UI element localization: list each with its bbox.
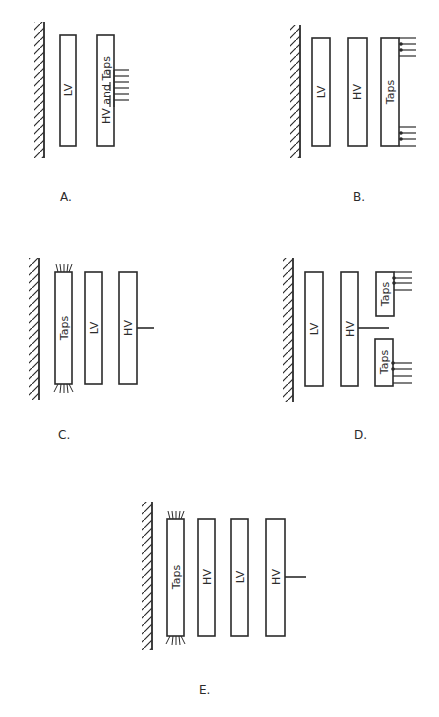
diagram-d: LV HV Taps Taps xyxy=(283,258,412,442)
caption-a: A. xyxy=(60,190,72,204)
winding-b-lv: LV xyxy=(312,38,330,146)
caption-b: B. xyxy=(353,190,365,204)
winding-label: HV xyxy=(201,569,214,585)
winding-c-hv: HV xyxy=(119,272,154,384)
winding-label: Taps xyxy=(378,350,391,376)
winding-label: Taps xyxy=(379,282,392,308)
winding-label: LV xyxy=(88,321,101,334)
winding-label: HV xyxy=(351,84,364,100)
winding-label: Taps xyxy=(58,316,71,342)
winding-b-taps: Taps xyxy=(381,38,399,146)
core-wall-d xyxy=(283,258,293,402)
winding-label: LV xyxy=(315,85,328,98)
winding-e-hv-outer: HV xyxy=(266,519,306,636)
tap-fan-bottom xyxy=(166,636,185,645)
winding-e-hv-inner: HV xyxy=(198,519,215,636)
winding-label: HV xyxy=(344,321,357,337)
winding-label: Taps xyxy=(170,565,183,591)
winding-label: HV xyxy=(270,569,283,585)
winding-c-lv: LV xyxy=(85,272,102,384)
winding-d-taps-upper: Taps xyxy=(376,272,412,316)
caption-c: C. xyxy=(58,428,70,442)
winding-a-hv-taps: HV and Taps xyxy=(97,35,114,146)
winding-label: Taps xyxy=(384,80,397,106)
core-wall-a xyxy=(34,22,44,158)
tap-fan-top xyxy=(168,511,184,519)
winding-c-taps: Taps xyxy=(54,264,73,393)
core-wall-c xyxy=(29,258,39,400)
winding-label: HV and Taps xyxy=(100,56,113,124)
winding-arrangements-figure: LV HV and Taps A. LV xyxy=(0,0,439,717)
winding-e-lv: LV xyxy=(231,519,248,636)
diagram-c: Taps LV HV C. xyxy=(29,258,154,442)
diagram-b: LV HV Taps B. xyxy=(290,25,416,204)
caption-e: E. xyxy=(199,683,210,697)
tap-fan-bottom xyxy=(54,384,73,393)
winding-label: LV xyxy=(308,322,321,335)
winding-label: HV xyxy=(122,320,135,336)
tap-fan-top xyxy=(56,264,72,272)
core-wall-e xyxy=(142,502,152,650)
winding-label: LV xyxy=(234,570,247,583)
winding-d-lv: LV xyxy=(305,272,323,386)
winding-d-taps-lower: Taps xyxy=(375,339,412,386)
diagram-a: LV HV and Taps A. xyxy=(34,22,129,204)
winding-e-taps: Taps xyxy=(166,511,185,645)
winding-a-lv: LV xyxy=(60,35,76,146)
winding-b-hv: HV xyxy=(348,38,367,146)
tap-leads-b xyxy=(399,38,416,146)
winding-label: LV xyxy=(62,83,75,96)
diagram-e: Taps HV LV HV xyxy=(142,502,306,697)
caption-d: D. xyxy=(354,428,367,442)
core-wall-b xyxy=(290,25,300,158)
